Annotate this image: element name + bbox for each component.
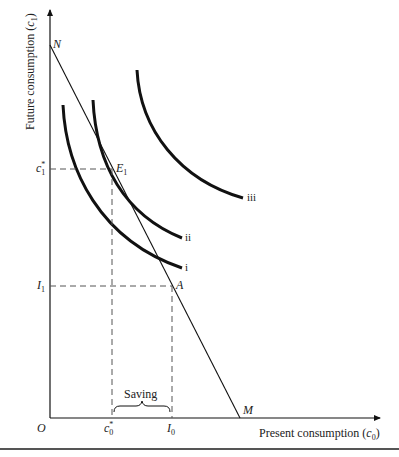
x-tick-c0-star: c*0 <box>104 420 113 437</box>
y-axis-label: Future consumption (c1) <box>23 13 39 130</box>
point-E1-label: E1 <box>115 161 127 177</box>
point-M-label: M <box>242 403 254 417</box>
point-A-label: A <box>175 278 184 292</box>
curve-i-label: i <box>185 261 188 273</box>
x-axis-label: Present consumption (c0) <box>259 426 380 442</box>
saving-label: Saving <box>124 387 157 401</box>
saving-brace <box>114 401 170 412</box>
x-tick-I0: I0 <box>166 421 175 437</box>
intertemporal-consumption-diagram: Future consumption (c1) Present consumpt… <box>0 0 399 457</box>
indifference-curve-iii <box>137 70 243 198</box>
curve-iii-label: iii <box>247 191 256 203</box>
e1-guides <box>50 169 112 418</box>
y-tick-I1: I1 <box>36 278 45 294</box>
budget-line <box>50 45 240 418</box>
bottom-divider <box>0 448 399 450</box>
curve-ii-label: ii <box>185 231 191 243</box>
y-tick-c1-star: c*1 <box>36 160 45 177</box>
origin-label: O <box>37 421 46 435</box>
point-N-label: N <box>52 37 62 51</box>
